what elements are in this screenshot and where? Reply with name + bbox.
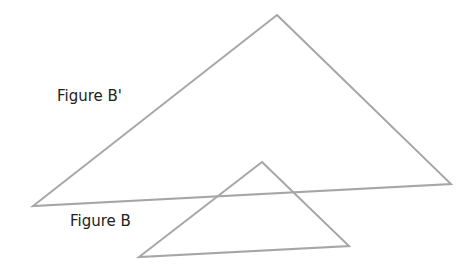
figure-b-triangle — [139, 162, 349, 257]
diagram-canvas: Figure B' Figure B — [0, 0, 470, 266]
figure-b-label: Figure B — [70, 214, 131, 229]
figure-b-prime-label: Figure B' — [57, 89, 122, 104]
